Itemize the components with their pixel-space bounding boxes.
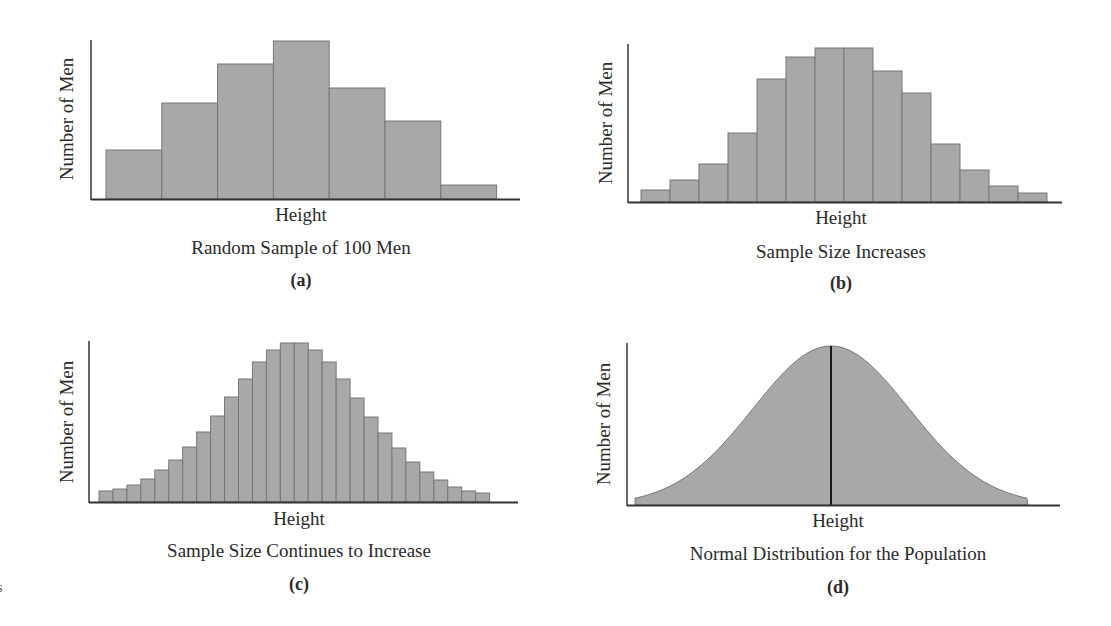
clipped-text-fragment: s bbox=[0, 580, 2, 596]
normal-curve-d bbox=[0, 0, 1111, 626]
caption-d: Normal Distribution for the Population bbox=[690, 543, 987, 565]
y-axis-label-d: Number of Men bbox=[593, 363, 615, 485]
panel-letter-d: (d) bbox=[827, 577, 849, 598]
x-axis-label-d: Height bbox=[812, 510, 864, 532]
